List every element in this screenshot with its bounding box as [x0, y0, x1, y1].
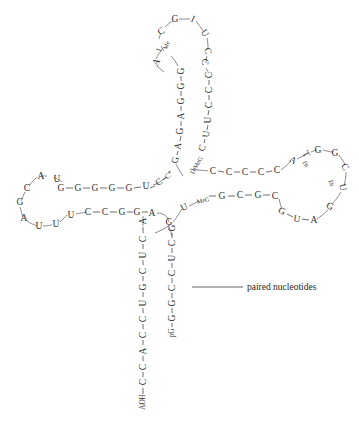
backbone-curve: [176, 164, 183, 176]
nucleotide-t-stem-lower-0: G: [166, 217, 173, 227]
nucleotide-variable-loop-0: C: [210, 166, 216, 176]
backbone-curve: [29, 177, 37, 186]
nucleotide-anticodon-loop-4: G: [172, 14, 179, 24]
nucleotide-acceptor-stem-3p-10: C: [138, 379, 148, 385]
nucleotide-t-stem-upper-5: C: [272, 191, 278, 201]
backbone-bonds: [66, 76, 309, 394]
nucleotide-acceptor-stem-5p-3: C: [167, 285, 177, 291]
nucleotide-acceptor-stem-3p-3: C: [138, 268, 148, 274]
nucleotide-anticodon-stem-left-0: G: [176, 67, 186, 74]
nucleotide-d-loop-0: A: [38, 171, 45, 181]
nucleotide-d-stem-upper-2: G: [92, 183, 99, 193]
nucleotide-d-stem-upper-4: G: [126, 183, 133, 193]
nucleotide-acceptor-stem-5p-4: C: [167, 270, 177, 276]
nucleotide-variable-loop-3: C: [258, 167, 264, 177]
nucleotide-anticodon-loop-3: C: [156, 25, 166, 37]
nucleotide-d-stem-upper-1: G: [75, 183, 82, 193]
nucleotide-anticodon-stem-right-5: C: [196, 143, 208, 152]
nucleotide-d-loop-4: A: [21, 213, 28, 223]
nucleotide-t-loop-6: U: [337, 183, 348, 192]
nucleotide-anticodon-stem-left-4: G: [175, 127, 185, 134]
nucleotide-acceptor-stem-3p-8: A: [138, 347, 148, 354]
nucleotide-anticodon-loop-5: I: [189, 14, 196, 24]
nucleotide-variable-loop-4: C: [274, 165, 280, 175]
nucleotide-acceptor-stem-3p-4: G: [138, 283, 148, 290]
nucleotide-t-stem-lower-3: A: [311, 215, 318, 225]
backbone-curve: [317, 210, 328, 219]
nucleotide-anticodon-stem-left-1: G: [176, 82, 186, 89]
nucleotide-acceptor-stem-3p-9: C: [138, 364, 148, 370]
annotation-group: paired nucleotides: [192, 282, 317, 292]
nucleotide-t-loop-4: G: [332, 148, 339, 158]
base-pair-bond: [134, 187, 141, 188]
nucleotide-acceptor-stem-5p-6: C: [167, 240, 177, 246]
backbone-curve: [60, 215, 67, 222]
nucleotide-d-loop-1: U: [54, 174, 61, 184]
nucleotide-d-loop-6: U: [53, 219, 60, 229]
base-pair-bond: [180, 136, 181, 141]
nucleotide-acceptor-stem-5p-0: pG: [168, 329, 176, 338]
nucleotide-acceptor-stem-5p-2: G: [167, 299, 177, 306]
nucleotide-variable-loop-1: C: [226, 167, 232, 177]
base-pair-bond: [150, 186, 155, 188]
nucleotide-anticodon-stem-left-6: G: [169, 155, 181, 165]
base-pair-bond: [177, 151, 178, 155]
nucleotide-t-loop-7: Di: [328, 179, 337, 187]
nucleotide-acceptor-stem-3p-11: AOH: [139, 394, 147, 410]
trna-structure-svg: pGGGCCUCGACUCGUCCACCAOHGGGGGUCC*UCCGGAAU…: [0, 0, 359, 424]
nucleotide-acceptor-stem-3p-6: C: [138, 316, 148, 322]
nucleotide-d-stem-lower-3: G: [119, 207, 126, 217]
base-pair-bond: [302, 219, 309, 220]
nucleotide-d-loop-3: G: [17, 197, 24, 207]
nucleotide-t-loop-3: G: [315, 145, 322, 155]
nucleotide-anticodon-stem-right-4: U: [201, 130, 212, 138]
backbone-curve: [43, 225, 52, 226]
nucleotide-d-stem-lower-5: A: [149, 208, 156, 218]
nucleotide-labels: pGGGCCUCGACUCGUCCACCAOHGGGGGUCC*UCCGGAAU…: [17, 14, 351, 410]
nucleotide-d-stem-lower-2: C: [102, 207, 108, 217]
nucleotide-d-stem-lower-0: U: [68, 210, 75, 220]
paired-nucleotides-label: paired nucleotides: [247, 282, 317, 292]
nucleotide-acceptor-stem-5p-1: G: [167, 314, 177, 321]
nucleotide-acceptor-stem-3p-1: C: [138, 236, 148, 242]
nucleotide-anticodon-loop-8: C: [200, 58, 211, 65]
nucleotide-anticodon-stem-right-3: U: [203, 116, 213, 123]
nucleotide-anticodon-stem-left-5: A: [172, 142, 183, 151]
base-pair-bond: [287, 214, 293, 217]
nucleotide-acceptor-stem-3p-0: A: [138, 217, 148, 224]
backbone-curve: [171, 56, 178, 66]
nucleotide-t-stem-upper-2: G: [219, 191, 226, 201]
nucleotide-variable-loop-2: C: [242, 167, 248, 177]
nucleotide-anticodon-loop-7: C: [202, 47, 213, 56]
base-pair-bond: [266, 171, 272, 172]
nucleotide-anticodon-loop-6: U: [199, 27, 211, 38]
backbone-curve: [196, 21, 203, 31]
nucleotide-d-stem-upper-5: U: [143, 181, 150, 191]
nucleotide-anticodon-loop-0: Me: [161, 40, 170, 50]
nucleotide-acceptor-stem-5p-5: U: [167, 254, 177, 261]
nucleotide-d-loop-2: C: [24, 183, 30, 193]
nucleotide-anticodon-stem-left-2: G: [176, 97, 186, 104]
nucleotide-d-stem-upper-0: G: [58, 183, 65, 193]
nucleotide-acceptor-stem-3p-7: C: [138, 332, 148, 338]
nucleotide-anticodon-stem-right-1: C: [204, 87, 214, 93]
nucleotide-t-loop-5: C: [339, 162, 351, 173]
nucleotide-anticodon-stem-right-0: C: [204, 72, 214, 78]
nucleotide-t-stem-lower-2: U: [293, 213, 302, 224]
nucleotide-d-stem-lower-1: C: [85, 207, 91, 217]
base-pair-bond: [204, 139, 205, 143]
base-pair-bond: [207, 125, 208, 130]
nucleotide-anticodon-stem-right-6: DiMeG: [188, 155, 204, 175]
nucleotide-t-stem-lower-1: G: [277, 205, 288, 217]
nucleotide-d-stem-upper-6: C: [154, 176, 165, 188]
nucleotide-t-loop-1: T: [300, 149, 312, 159]
nucleotide-t-loop-8: G: [325, 200, 336, 212]
backbone-curve: [173, 209, 182, 222]
nucleotide-t-stem-upper-4: G: [255, 190, 262, 200]
base-pair-bond: [218, 171, 224, 172]
nucleotide-acceptor-stem-3p-5: U: [138, 299, 148, 306]
base-pair-bond: [208, 110, 209, 115]
nucleotide-anticodon-loop-2: A: [150, 56, 162, 67]
nucleotide-t-loop-2: Di: [301, 160, 310, 169]
nucleotide-d-loop-5: U: [36, 221, 43, 231]
